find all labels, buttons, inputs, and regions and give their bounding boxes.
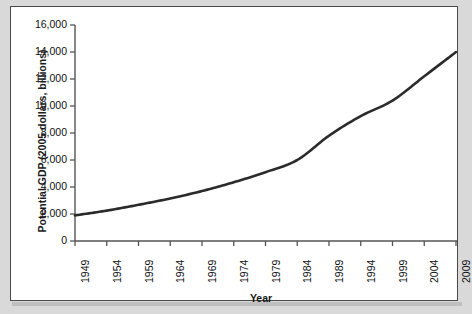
x-tick-label: 1949 <box>79 260 91 283</box>
x-tick-label: 1984 <box>301 260 313 283</box>
x-tick-label: 1989 <box>333 260 345 283</box>
chart-card: 02,0004,0006,0008,00010,00012,00014,0001… <box>10 6 458 301</box>
x-tick-label: 1994 <box>365 260 377 283</box>
y-axis-title: Potential GDP (2005 dollars, billions) <box>36 31 48 251</box>
x-tick-label: 1954 <box>111 260 123 283</box>
y-tick-label: 16,000 <box>21 18 67 30</box>
x-axis-ticks <box>75 241 456 246</box>
x-tick-label: 1974 <box>238 260 250 283</box>
x-axis-title: Year <box>201 292 321 304</box>
y-axis-ticks <box>70 25 75 241</box>
x-tick-label: 2009 <box>460 260 472 283</box>
chart-plot-area <box>11 7 457 300</box>
x-tick-label: 1964 <box>174 260 186 283</box>
x-tick-label: 1969 <box>206 260 218 283</box>
x-tick-label: 2004 <box>428 260 440 283</box>
x-tick-label: 1979 <box>270 260 282 283</box>
x-tick-label: 1999 <box>397 260 409 283</box>
x-tick-label: 1959 <box>143 260 155 283</box>
gdp-line-series <box>75 52 456 215</box>
